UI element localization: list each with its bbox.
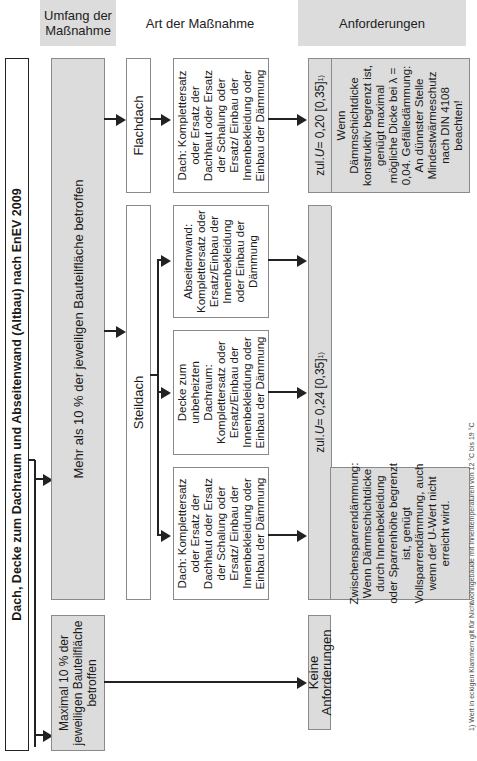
anforderung-steil-box: zul. U = 0,24 [0,35]1) (308, 205, 331, 600)
anforderung-flach-box: zul. U = 0,20 [0,35]1) Wenn Dämmschichtd… (308, 58, 470, 193)
label-value: = 0,20 [0,35] (313, 81, 327, 148)
dachtyp-flachdach-text: Flachdach (132, 96, 145, 156)
arrow-icon (161, 387, 171, 399)
anforderung-flach-text: Wenn Dämmschichtdicke konstruktiv begren… (331, 59, 469, 192)
arrow-icon (116, 114, 126, 126)
arrow-icon (161, 114, 171, 126)
flowchart: Dach, Decke zum Dachraum und Abseitenwan… (0, 0, 477, 761)
anforderung-steil-label: zul. U = 0,24 [0,35]1) (309, 206, 332, 599)
anforderung-steil-note-box: Zwischensparrendämmung: Wenn Dämmschicht… (330, 467, 470, 600)
umfang-mehr-box: Mehr als 10 % der jeweiligen Bauteilfläc… (51, 58, 105, 600)
arrow-icon (116, 326, 126, 338)
massnahme-abseitenwand-box: Abseitenwand: Komplettersatz oder Ersatz… (173, 205, 269, 318)
massnahme-dach-steil-text: Dach: Komplettersatz oder Ersatz der Dac… (176, 472, 267, 595)
label-u: U (313, 425, 327, 434)
flowchart-title-text: Dach, Decke zum Dachraum und Abseitenwan… (11, 188, 24, 620)
dachtyp-steildach-text: Steildach (132, 376, 145, 429)
footnote-ref: 1) (317, 352, 324, 358)
umfang-maximal-box: Maximal 10 % der jeweiligen Bauteilfläch… (51, 615, 105, 751)
umfang-mehr-text: Mehr als 10 % der jeweiligen Bauteilfläc… (72, 180, 85, 479)
label-prefix: zul. (313, 434, 327, 453)
anforderung-keine-text: Keine Anforderungen (307, 620, 333, 725)
label-value: = 0,24 [0,35] (313, 358, 327, 425)
connector-line (268, 392, 298, 394)
massnahme-dach-flach-text: Dach: Komplettersatz oder Ersatz der Dac… (176, 63, 267, 188)
connector-line (268, 260, 298, 262)
footnote: 1) Wert in eckigen Klammern gilt für Nic… (468, 422, 475, 731)
footnote-ref: 1) (317, 75, 324, 81)
arrow-icon (161, 530, 171, 542)
massnahme-dach-flach-box: Dach: Komplettersatz oder Ersatz der Dac… (173, 58, 269, 193)
label-u: U (313, 148, 327, 157)
anforderung-flach-label: zul. U = 0,20 [0,35]1) (309, 59, 332, 192)
connector-line (34, 460, 36, 747)
arrow-icon (297, 387, 307, 399)
arrow-icon (297, 530, 307, 542)
massnahme-decke-box: Decke zum unbeheizten Dachraum: Komplett… (173, 330, 269, 455)
connector-line (268, 535, 298, 537)
dachtyp-steildach-box: Steildach (126, 205, 151, 600)
dachtyp-flachdach-box: Flachdach (126, 58, 151, 193)
arrow-icon (297, 114, 307, 126)
arrow-icon (161, 255, 171, 267)
connector-line (268, 119, 298, 121)
umfang-maximal-text: Maximal 10 % der jeweiligen Bauteilfläch… (57, 620, 99, 746)
label-prefix: zul. (313, 157, 327, 176)
anforderung-steil-text: Zwischensparrendämmung: Wenn Dämmschicht… (348, 463, 452, 605)
flowchart-title: Dach, Decke zum Dachraum und Abseitenwan… (5, 58, 29, 751)
massnahme-decke-text: Decke zum unbeheizten Dachraum: Komplett… (176, 335, 267, 450)
connector-line (104, 682, 298, 684)
arrow-icon (297, 255, 307, 267)
massnahme-abseitenwand-text: Abseitenwand: Komplettersatz oder Ersatz… (182, 210, 260, 313)
anforderung-keine-box: Keine Anforderungen (308, 615, 331, 730)
massnahme-dach-steil-box: Dach: Komplettersatz oder Ersatz der Dac… (173, 467, 269, 600)
connector-line (157, 260, 159, 536)
